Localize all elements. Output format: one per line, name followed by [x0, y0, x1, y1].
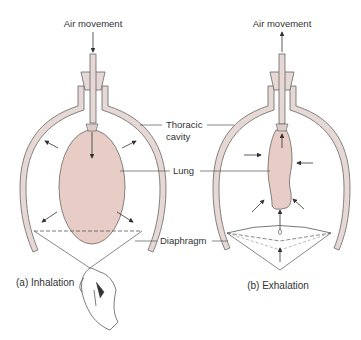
tube-a: [90, 54, 96, 123]
air-movement-label-a: Air movement: [64, 18, 123, 29]
lung-tie-a: [86, 124, 98, 131]
panel-inhalation: Air movement (a) Inhalation: [16, 18, 166, 330]
label-thoracic: Thoracic: [166, 119, 203, 130]
diaphragm-domed: [227, 226, 331, 234]
hand-icon: [80, 268, 118, 330]
caption-exhalation: (b) Exhalation: [247, 280, 309, 291]
inward-arrow-icon: [252, 200, 264, 212]
caption-inhalation: (a) Inhalation: [16, 277, 74, 288]
label-cavity: cavity: [166, 131, 191, 142]
shared-labels: Thoracic cavity Lung Diaphragm: [120, 119, 270, 246]
label-lung: Lung: [173, 165, 194, 176]
droplet-icon: [279, 230, 282, 235]
lung-deflated: [268, 130, 292, 209]
lung-tie-b: [276, 124, 288, 131]
diaphragm-lowest-line: [227, 233, 331, 270]
panel-exhalation: Air movement (b) Exhalation: [213, 18, 350, 291]
outward-arrow-icon: [42, 212, 57, 222]
label-diaphragm: Diaphragm: [160, 235, 207, 246]
air-movement-label-b: Air movement: [253, 18, 312, 29]
inward-arrow-icon: [293, 199, 304, 209]
outward-arrow-icon: [122, 141, 136, 148]
tube-b: [279, 54, 285, 124]
bell-jar-diagram: Air movement (a) Inhalation Air movement: [0, 0, 361, 340]
outward-arrow-icon: [45, 141, 58, 148]
